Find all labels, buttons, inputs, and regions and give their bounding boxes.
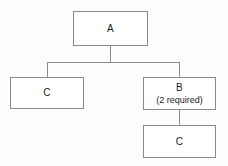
connector-horizontal-bus	[47, 62, 180, 63]
node-box-c-bottom[interactable]: C	[143, 125, 216, 158]
node-a-label: A	[107, 23, 114, 35]
diagram-canvas: A C B (2 required) C	[0, 0, 228, 166]
connector-drop-to-b	[179, 62, 180, 77]
node-box-b[interactable]: B (2 required)	[143, 77, 216, 110]
connector-b-to-c-bottom	[179, 110, 180, 125]
node-box-c-left[interactable]: C	[10, 77, 84, 109]
node-b-label: B	[176, 82, 183, 94]
node-b-sublabel: (2 required)	[156, 95, 203, 105]
connector-drop-to-c-left	[47, 62, 48, 77]
connector-a-stem	[110, 46, 111, 62]
node-c-left-label: C	[43, 87, 50, 99]
node-box-a[interactable]: A	[73, 11, 148, 46]
node-c-bottom-label: C	[176, 136, 183, 148]
